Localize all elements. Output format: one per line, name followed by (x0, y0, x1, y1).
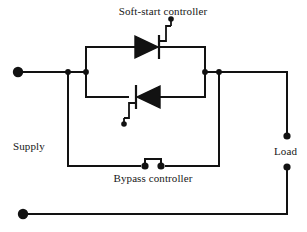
gate-terminal-lower-dot (121, 121, 127, 127)
label-supply: Supply (13, 140, 45, 152)
junction-supply-bypass (65, 69, 71, 75)
label-load: Load (274, 145, 297, 157)
gate-terminal-upper-dot (168, 16, 174, 22)
supply-bottom-terminal-dot (18, 209, 28, 219)
label-soft-start-controller: Soft-start controller (119, 5, 208, 17)
junction-output-bypass (216, 69, 222, 75)
schematic-canvas: Soft-start controller Bypass controller … (0, 0, 307, 232)
circuit-diagram: Soft-start controller Bypass controller … (0, 0, 307, 232)
bypass-contact-left-dot (141, 162, 148, 169)
junction-block-right (202, 69, 208, 75)
thyristor-lower-gate-lead (124, 103, 136, 118)
supply-top-terminal-dot (13, 67, 23, 77)
load-top-terminal-dot (283, 132, 290, 139)
junction-block-left (83, 69, 89, 75)
thyristor-upper-gate-lead (159, 26, 171, 41)
thyristor-lower-anode-triangle (137, 86, 160, 108)
thyristor-upper-anode-triangle (135, 36, 158, 58)
label-bypass-controller: Bypass controller (114, 172, 193, 184)
bypass-contact-right-dot (157, 162, 164, 169)
